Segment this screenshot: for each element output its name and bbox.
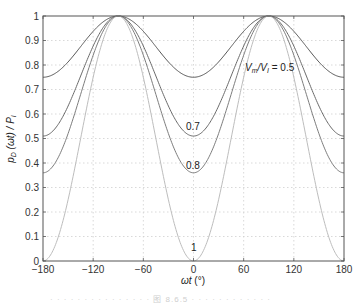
x-tick-label: 180 bbox=[336, 264, 353, 275]
y-tick-label: 0.9 bbox=[25, 35, 39, 46]
x-tick-label: −60 bbox=[135, 264, 152, 275]
x-tick-label: −120 bbox=[82, 264, 105, 275]
annotation-vm-vi-05: Vm/VI = 0.5 bbox=[245, 62, 295, 74]
y-tick-label: 0.7 bbox=[25, 84, 39, 95]
x-tick-label: 120 bbox=[285, 264, 302, 275]
figure-caption: · · · · · · · · · · · · · · · 图 8.6.5 · … bbox=[50, 293, 360, 303]
y-tick-label: 1 bbox=[33, 11, 39, 22]
tick-labels: −180−120−6006012018000.10.20.30.40.50.60… bbox=[25, 11, 353, 276]
y-tick-label: 0 bbox=[33, 256, 39, 267]
x-axis-label: ωt (°) bbox=[181, 275, 205, 286]
y-tick-label: 0.2 bbox=[25, 207, 39, 218]
annotation-08: 0.8 bbox=[186, 160, 200, 171]
x-tick-label: 0 bbox=[191, 264, 197, 275]
annotation-07: 0.7 bbox=[186, 121, 200, 132]
y-tick-label: 0.8 bbox=[25, 60, 39, 71]
y-axis-label: pD (ωt) / PI bbox=[5, 115, 17, 164]
line-chart: −180−120−6006012018000.10.20.30.40.50.60… bbox=[0, 0, 364, 304]
grid-lines bbox=[43, 16, 344, 261]
y-tick-label: 0.3 bbox=[25, 182, 39, 193]
annotation-1: 1 bbox=[191, 242, 197, 253]
y-tick-label: 0.1 bbox=[25, 231, 39, 242]
y-tick-label: 0.5 bbox=[25, 133, 39, 144]
y-tick-label: 0.6 bbox=[25, 109, 39, 120]
x-tick-label: 60 bbox=[238, 264, 250, 275]
y-tick-label: 0.4 bbox=[25, 158, 39, 169]
